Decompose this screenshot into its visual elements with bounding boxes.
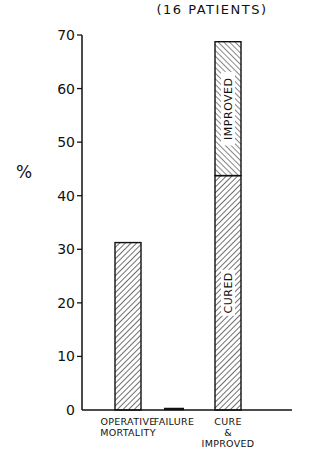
axes: 010203040506070 bbox=[57, 27, 292, 418]
chart-title: (16 PATIENTS) bbox=[156, 2, 267, 17]
x-tick-label: CURE bbox=[214, 416, 241, 427]
y-tick-label: 30 bbox=[57, 241, 75, 257]
y-tick-label: 50 bbox=[57, 134, 75, 150]
y-tick-label: 60 bbox=[57, 81, 75, 97]
segment-label: IMPROVED bbox=[222, 77, 235, 139]
y-tick-label: 70 bbox=[57, 27, 75, 43]
y-tick-label: 20 bbox=[57, 295, 75, 311]
x-tick-label: FAILURE bbox=[154, 416, 194, 427]
y-tick-label: 0 bbox=[66, 402, 75, 418]
bar-segment-primary bbox=[115, 243, 141, 410]
y-tick-label: 40 bbox=[57, 188, 75, 204]
bar-chart: (16 PATIENTS) % 010203040506070 CUREDIMP… bbox=[0, 0, 311, 469]
bars: CUREDIMPROVED bbox=[115, 42, 241, 410]
y-tick-label: 10 bbox=[57, 348, 75, 364]
x-tick-label: & bbox=[224, 427, 232, 438]
y-axis-label: % bbox=[16, 162, 32, 182]
x-tick-label: IMPROVED bbox=[202, 438, 255, 449]
x-tick-labels: OPERATIVEMORTALITYFAILURECURE&IMPROVED bbox=[100, 416, 254, 449]
x-tick-label: MORTALITY bbox=[100, 427, 156, 438]
segment-label: CURED bbox=[222, 272, 235, 313]
x-tick-label: OPERATIVE bbox=[101, 416, 156, 427]
